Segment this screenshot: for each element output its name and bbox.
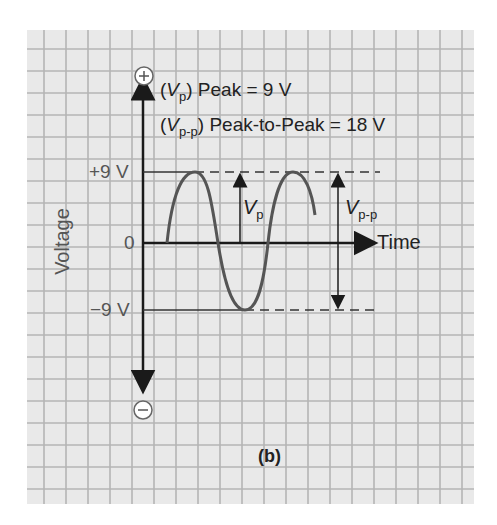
figure-label: (b)	[258, 446, 281, 467]
y-tick-zero: 0	[124, 232, 135, 254]
y-tick-pos9: +9 V	[89, 161, 129, 183]
sine-wave	[167, 172, 315, 310]
y-axis-label: Voltage	[51, 208, 74, 275]
vpp-annotation: Vp-p	[345, 196, 377, 219]
legend-peak: (Vp) Peak = 9 V	[160, 79, 291, 101]
vpp-subscript: p-p	[179, 124, 198, 139]
vpp-annot-subscript: p-p	[358, 207, 377, 222]
grid-lines	[27, 30, 474, 504]
vp-annotation: Vp	[243, 196, 264, 219]
vp-symbol: V	[166, 79, 179, 100]
peak-text: Peak = 9 V	[198, 79, 291, 100]
vpp-annot-symbol: V	[345, 196, 358, 218]
y-tick-neg9: −9 V	[90, 299, 130, 321]
vp-annot-symbol: V	[243, 196, 256, 218]
vp-annot-subscript: p	[256, 207, 263, 222]
x-axis-label: Time	[377, 231, 421, 254]
peak-to-peak-text: Peak-to-Peak = 18 V	[209, 114, 385, 135]
legend-peak-to-peak: (Vp-p) Peak-to-Peak = 18 V	[160, 114, 385, 136]
vpp-symbol: V	[166, 114, 179, 135]
vp-subscript: p	[179, 89, 186, 104]
